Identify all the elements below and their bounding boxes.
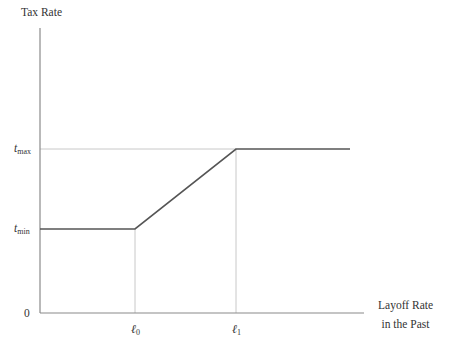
tmin-sub: min: [17, 227, 29, 236]
origin-label: 0: [24, 307, 30, 320]
x-tick-l1: ℓ1: [232, 323, 241, 339]
tmax-sub: max: [17, 147, 31, 156]
l0-sub: 0: [136, 328, 140, 337]
x-axis-title-line1: Layoff Rate: [378, 296, 433, 315]
x-axis-title: Layoff Rate in the Past: [378, 296, 433, 334]
x-axis-title-line2: in the Past: [378, 315, 433, 334]
y-tick-tmax: tmax: [14, 142, 31, 158]
y-tick-tmin: tmin: [14, 222, 30, 238]
tax-schedule-line: [40, 149, 350, 229]
l1-sub: 1: [237, 328, 241, 337]
y-axis-title: Tax Rate: [21, 6, 62, 19]
x-tick-l0: ℓ0: [131, 323, 140, 339]
